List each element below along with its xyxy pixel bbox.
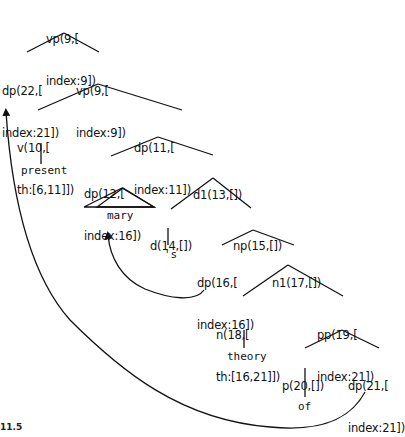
node-label: n1(17,[]) [272, 276, 321, 290]
node-feature: index:11]) [134, 183, 191, 197]
node-label: dp(12,[ [84, 187, 141, 201]
node-label: vp(9,[ [46, 32, 96, 46]
node-label: dp(11,[ [134, 141, 191, 155]
node-p20: p(20,[]) [282, 351, 324, 407]
leaf-theory: theory [227, 350, 267, 363]
node-feature: th:[16,21]]) [216, 370, 280, 384]
node-dp12: dp(12,[ index:16]) [84, 159, 141, 257]
node-n18: n(18,[ th:[16,21]]) [216, 300, 280, 398]
node-feature: index:16]) [84, 229, 141, 243]
node-dp21: dp(21,[ index:21]) [348, 351, 405, 437]
node-label: v(10,[ [17, 141, 74, 155]
node-feature: index:9]) [76, 126, 126, 140]
node-dp11: dp(11,[ index:11]) [134, 113, 191, 211]
leaf-mary: mary [107, 209, 134, 222]
node-label: dp(16,[ [197, 276, 254, 290]
node-vp9: vp(9,[ index:9]) [76, 56, 126, 154]
node-label: vp(9,[ [76, 84, 126, 98]
leaf-of: of [298, 400, 311, 413]
leaf-present: present [21, 164, 67, 177]
node-feature: index:21]) [348, 421, 405, 435]
node-label: dp(22,[ [2, 84, 59, 98]
node-label: dp(21,[ [348, 379, 405, 393]
figure-label: 11.5 [0, 422, 22, 432]
node-n1-17: n1(17,[]) [272, 248, 321, 304]
leaf-apostrophe-s: 's [164, 248, 177, 261]
node-label: p(20,[]) [282, 379, 324, 393]
node-label: n(18,[ [216, 328, 280, 342]
node-label: d1(13,[]) [193, 188, 242, 202]
node-d1-13: d1(13,[]) [193, 160, 242, 216]
node-feature: th:[6,11]]) [17, 183, 74, 197]
node-v10: v(10,[ th:[6,11]]) [17, 113, 74, 211]
node-label: pp(19,[ [317, 328, 374, 342]
